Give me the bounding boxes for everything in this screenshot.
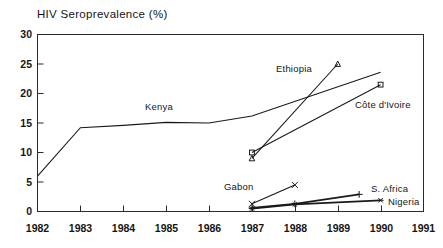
y-tick-label-0: 0	[26, 205, 32, 217]
x-tick-label-1986: 1986	[198, 222, 222, 234]
series-label-cote-divoire: Côte d'Ivoire	[355, 99, 411, 110]
y-tick-label-15: 15	[20, 117, 32, 129]
x-tick-label-1988: 1988	[284, 222, 308, 234]
y-tick-label-30: 30	[20, 28, 32, 40]
series-layer	[38, 61, 384, 211]
series-label-kenya: Kenya	[145, 101, 173, 112]
x-tick-label-1983: 1983	[69, 222, 93, 234]
line-chart-plot: 30 25 20 15 10 5 0 1982 1983 1984 1985 1…	[0, 0, 443, 248]
series-label-nigeria: Nigeria	[388, 196, 420, 207]
chart-figure: HIV Seroprevalence (%) 30 25 20 15 10 5 …	[0, 0, 443, 248]
y-tick-label-25: 25	[20, 58, 32, 70]
series-label-s-africa: S. Africa	[371, 183, 409, 194]
x-tick-label-1991: 1991	[412, 222, 436, 234]
marker-ethiopia-1	[335, 61, 341, 66]
y-tick-label-10: 10	[20, 146, 32, 158]
y-tick-label-20: 20	[20, 87, 32, 99]
x-tick-label-1984: 1984	[112, 222, 136, 234]
x-tick-label-1982: 1982	[26, 222, 50, 234]
x-tick-label-1989: 1989	[327, 222, 351, 234]
series-line-c-te-d-ivoire	[252, 85, 381, 153]
marker-c-te-d-ivoire-1	[378, 82, 383, 87]
y-axis-ticks	[38, 35, 44, 212]
x-tick-label-1990: 1990	[370, 222, 394, 234]
series-line-gabon	[252, 185, 295, 204]
x-tick-label-1985: 1985	[155, 222, 179, 234]
x-axis-ticks	[38, 206, 424, 212]
marker-gabon-1	[292, 182, 298, 188]
series-line-kenya	[38, 72, 381, 176]
series-label-gabon: Gabon	[224, 181, 254, 192]
series-label-ethiopia: Ethiopia	[276, 63, 312, 74]
y-tick-label-5: 5	[26, 176, 32, 188]
x-tick-label-1987: 1987	[241, 222, 265, 234]
marker-s-africa-2	[356, 191, 363, 198]
marker-nigeria-2	[378, 198, 384, 202]
